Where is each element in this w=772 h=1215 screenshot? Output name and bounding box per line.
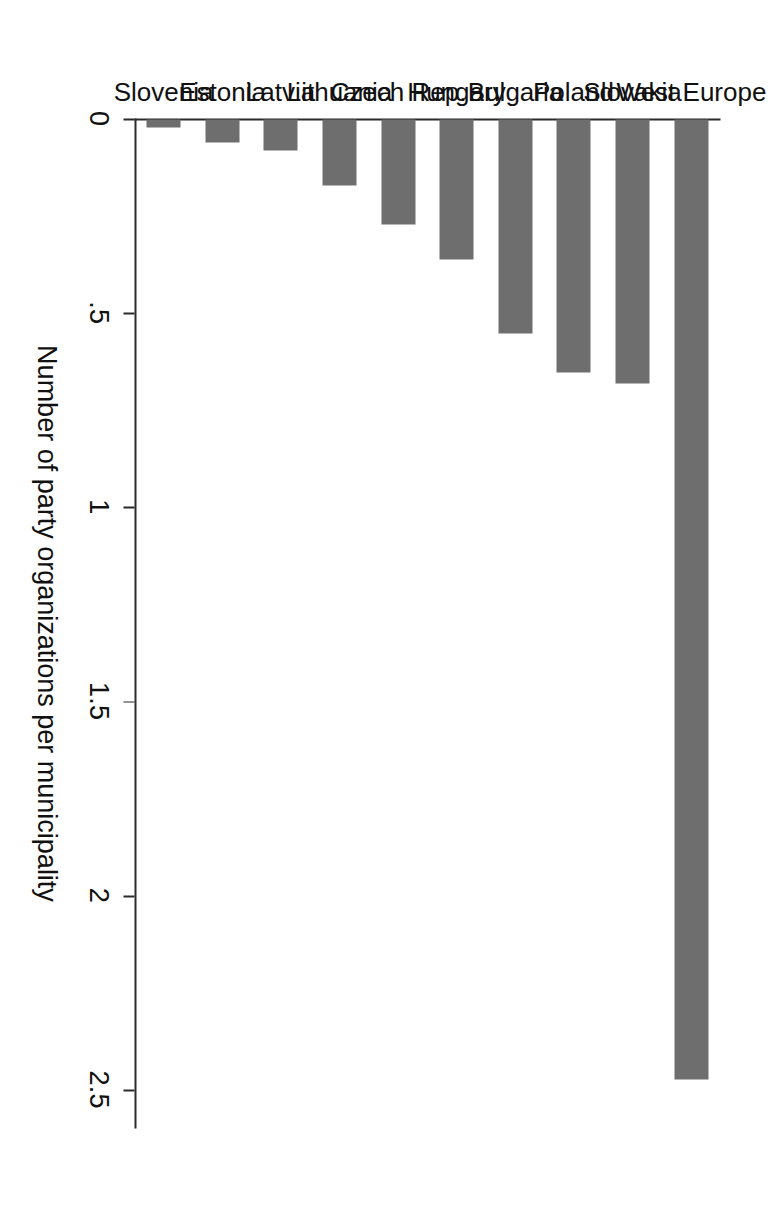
bar: [381, 119, 415, 224]
axis-tick-label: 1.5: [82, 682, 113, 720]
axis-tick: [123, 312, 134, 314]
axis-tick: [123, 895, 134, 897]
plot-area: 0.511.522.5 SloveniaEstoniaLatviaLithuan…: [134, 118, 720, 1128]
axis-tick-label: 2.5: [82, 1070, 113, 1108]
axis-tick-label: .5: [82, 301, 113, 324]
category-label: West Europe: [616, 77, 766, 108]
bar: [264, 119, 298, 150]
axis-tick: [123, 506, 134, 508]
axis-tick: [123, 118, 134, 120]
bar: [557, 119, 591, 372]
bar: [498, 119, 532, 333]
chart-page: 0.511.522.5 SloveniaEstoniaLatviaLithuan…: [0, 0, 772, 1215]
axis-tick: [123, 701, 134, 703]
bar: [146, 119, 180, 127]
bar-chart-figure: 0.511.522.5 SloveniaEstoniaLatviaLithuan…: [0, 0, 772, 1215]
axis-tick-label: 0: [82, 110, 113, 125]
axis-tick-label: 1: [82, 499, 113, 514]
bar: [439, 119, 473, 259]
bars-group: SloveniaEstoniaLatviaLithuaniaCzech Rep.…: [134, 118, 720, 1128]
axis-tick-label: 2: [82, 887, 113, 902]
bar: [322, 119, 356, 185]
rotated-figure-wrapper: 0.511.522.5 SloveniaEstoniaLatviaLithuan…: [0, 0, 772, 1215]
axis-tick: [123, 1089, 134, 1091]
bar: [615, 119, 649, 383]
bar: [205, 119, 239, 142]
bar: [674, 119, 708, 1079]
value-axis-title: Number of party organizations per munici…: [30, 345, 61, 902]
